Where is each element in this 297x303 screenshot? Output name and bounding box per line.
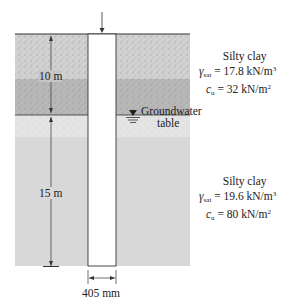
layer2-properties: Silty clay γsat = 19.6 kN/m3 cu = 80 kN/…	[199, 175, 276, 225]
pile-soil-diagram	[0, 0, 297, 303]
layer1-cu: cu = 32 kN/m2	[199, 81, 276, 100]
layer1-properties: Silty clay γsat = 17.8 kN/m3 cu = 32 kN/…	[199, 50, 276, 100]
layer1-thickness-label: 10 m	[39, 70, 62, 82]
layer2-soil-name: Silty clay	[199, 175, 276, 188]
layer2-gamma: γsat = 19.6 kN/m3	[199, 188, 276, 207]
pile-diameter-label: 405 mm	[82, 287, 120, 299]
load-arrow-icon	[100, 12, 105, 33]
water-table-label-line1: Groundwater	[141, 105, 202, 117]
pile	[88, 34, 116, 266]
layer1-gamma: γsat = 17.8 kN/m3	[199, 63, 276, 82]
dimension-pile-diameter	[88, 270, 116, 284]
layer2-thickness-label: 15 m	[39, 187, 62, 199]
water-table-label-line2: table	[157, 117, 179, 129]
layer1-soil-name: Silty clay	[199, 50, 276, 63]
layer2-cu: cu = 80 kN/m2	[199, 206, 276, 225]
